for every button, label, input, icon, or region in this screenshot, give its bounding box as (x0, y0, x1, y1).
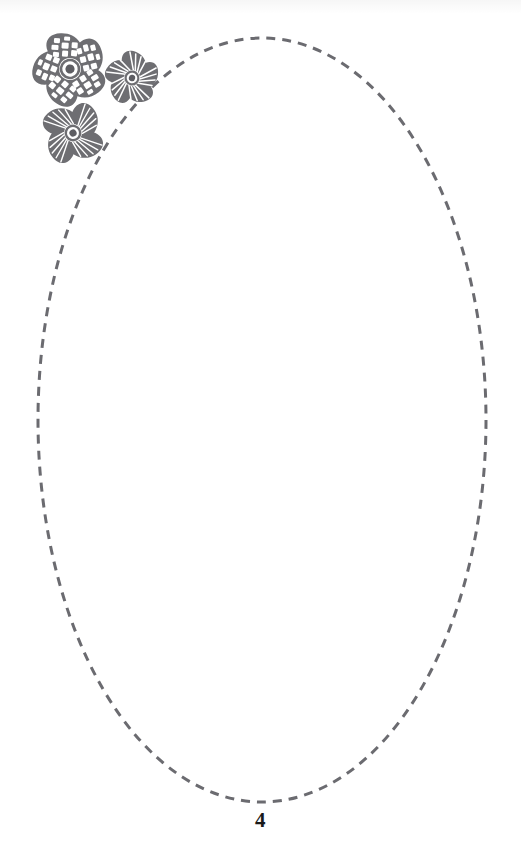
flower-large-icon (18, 20, 114, 119)
page-number: 4 (0, 808, 521, 832)
flower-cluster (0, 0, 521, 862)
worksheet-page: 4 (0, 0, 521, 862)
flower-medium-icon (96, 43, 163, 112)
